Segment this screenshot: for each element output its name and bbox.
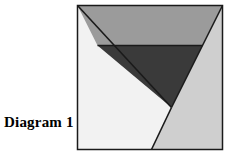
upper-gray-band <box>77 5 222 45</box>
diagram-figure <box>76 4 224 151</box>
diagram-canvas: Diagram 1 <box>0 0 226 159</box>
figure-label: Diagram 1 <box>4 113 76 131</box>
diagram-svg <box>76 4 224 151</box>
